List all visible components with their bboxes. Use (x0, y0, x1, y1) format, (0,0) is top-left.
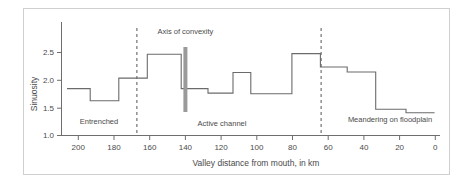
zone-label-meandering-on-floodplain: Meandering on floodplain (348, 115, 432, 124)
x-tick-label-80: 80 (288, 143, 297, 152)
sinuosity-step-line (67, 54, 435, 113)
x-tick-label-120: 120 (214, 143, 228, 152)
x-tick-label-20: 20 (395, 143, 404, 152)
x-tick-label-200: 200 (72, 143, 86, 152)
x-tick-label-160: 160 (143, 143, 157, 152)
axis-of-convexity-label: Axis of convexity (157, 27, 213, 36)
x-axis-title: Valley distance from mouth, in km (193, 158, 320, 168)
x-tick-label-180: 180 (107, 143, 121, 152)
x-tick-label-0: 0 (433, 143, 438, 152)
sinuosity-step-chart: 2.5 2.0 1.5 1.0 Sinuosity 200 180 160 14… (0, 0, 472, 184)
y-tick-label-2-5: 2.5 (43, 48, 55, 57)
x-tick-label-40: 40 (359, 143, 368, 152)
zone-label-active-channel: Active channel (198, 119, 247, 128)
zone-label-entrenched: Entrenched (80, 117, 118, 126)
x-axis-ticks (78, 136, 435, 141)
y-tick-label-1-0: 1.0 (43, 131, 55, 140)
y-axis-ticks (57, 53, 62, 136)
x-tick-label-140: 140 (179, 143, 193, 152)
chart-figure: 2.5 2.0 1.5 1.0 Sinuosity 200 180 160 14… (0, 0, 472, 184)
y-tick-label-1-5: 1.5 (43, 104, 55, 113)
y-axis-title: Sinuosity (29, 76, 39, 111)
x-tick-label-100: 100 (250, 143, 264, 152)
x-tick-label-60: 60 (324, 143, 333, 152)
y-tick-label-2-0: 2.0 (43, 76, 55, 85)
